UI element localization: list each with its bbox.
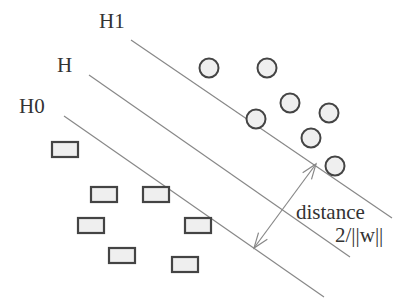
diagram-canvas <box>0 0 412 303</box>
class-circle-point <box>247 110 266 129</box>
margin-formula: 2/||w|| <box>335 225 383 246</box>
label-h0: H0 <box>19 96 45 117</box>
class-square-point <box>172 257 198 272</box>
hyperplane-h <box>89 75 350 257</box>
class-circle-point <box>326 157 345 176</box>
svm-diagram: H1 H H0 distance 2/||w|| <box>0 0 412 303</box>
distance-label: distance <box>296 202 365 223</box>
label-h: H <box>57 55 72 76</box>
class-circle-point <box>302 129 321 148</box>
class-square-point <box>109 248 135 263</box>
class-circle-point <box>320 104 339 123</box>
class-square-point <box>91 187 117 202</box>
class-square-point <box>78 218 104 233</box>
class-circle-point <box>281 94 300 113</box>
class-circle-point <box>200 59 219 78</box>
class-circle-point <box>258 59 277 78</box>
label-h1: H1 <box>99 11 125 32</box>
class-square-point <box>185 218 211 233</box>
class-square-point <box>52 142 78 157</box>
class-square-point <box>143 187 169 202</box>
